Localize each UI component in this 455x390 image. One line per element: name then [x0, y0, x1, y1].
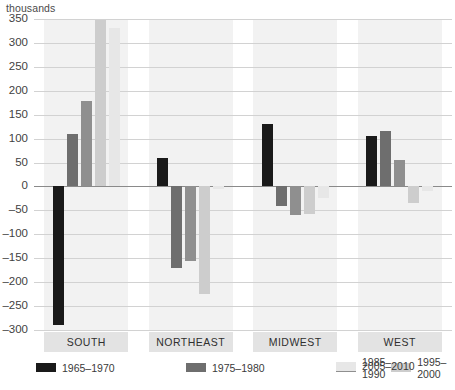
y-axis-tick-label: 150 — [9, 109, 28, 121]
y-axis-tick-label: 100 — [9, 133, 28, 145]
bar — [290, 186, 301, 215]
chart-legend: 1965–19701975–19801985–19901995–2000 — [36, 360, 366, 375]
bar — [318, 186, 329, 198]
y-axis-tick-label: –250 — [2, 300, 28, 312]
bar — [81, 101, 92, 186]
legend-swatch-icon — [336, 362, 356, 371]
bar — [185, 186, 196, 260]
y-axis-tick-label: 50 — [15, 157, 28, 169]
bar — [53, 186, 64, 325]
y-axis-tick-label: –200 — [2, 276, 28, 288]
bar — [95, 20, 106, 187]
bar — [171, 186, 182, 267]
bar-chart: thousands 350300250200150100500–50–100–1… — [0, 0, 455, 390]
bar — [304, 186, 315, 214]
y-axis-tick-label: –150 — [2, 252, 28, 264]
bar — [109, 28, 120, 187]
bar — [199, 186, 210, 294]
bar — [213, 186, 224, 188]
legend-item-label: 1965–1970 — [62, 362, 115, 374]
bar — [262, 124, 273, 186]
bar — [276, 186, 287, 205]
y-axis-tick-label: –300 — [2, 324, 28, 336]
legend-item[interactable]: 1965–1970 — [36, 360, 186, 375]
y-axis-tick-label: –50 — [9, 205, 28, 217]
chart-legend-extra: 2005–2010 — [336, 360, 415, 372]
legend-item[interactable]: 1975–1980 — [186, 360, 336, 375]
bar — [380, 131, 391, 186]
y-axis-tick-label: 250 — [9, 61, 28, 73]
category-label-south: SOUTH — [44, 332, 128, 352]
bar — [394, 160, 405, 186]
y-axis-tick-label: 0 — [22, 181, 28, 193]
legend-item-label: 1995–2000 — [417, 356, 446, 380]
category-label-midwest: MIDWEST — [253, 332, 337, 352]
legend-swatch-icon — [36, 363, 56, 372]
y-axis-tick-label: 300 — [9, 37, 28, 49]
bar — [422, 186, 433, 191]
y-axis-tick-label: 200 — [9, 85, 28, 97]
category-axis: SOUTHNORTHEASTMIDWESTWEST — [34, 332, 452, 352]
legend-item-label: 1975–1980 — [212, 362, 265, 374]
category-label-northeast: NORTHEAST — [149, 332, 233, 352]
category-label-west: WEST — [358, 332, 442, 352]
bar — [67, 134, 78, 187]
legend-item[interactable]: 2005–2010 — [336, 360, 415, 372]
plot-area: 350300250200150100500–50–100–150–200–250… — [34, 19, 452, 330]
gridline--300 — [34, 330, 452, 331]
bars-layer — [34, 19, 452, 330]
bar — [408, 186, 419, 203]
y-axis-tick-label: –100 — [2, 229, 28, 241]
legend-item-label: 2005–2010 — [362, 360, 415, 372]
bar — [157, 158, 168, 187]
y-axis-tick-label: 350 — [9, 13, 28, 25]
bar — [366, 136, 377, 186]
legend-swatch-icon — [186, 363, 206, 372]
